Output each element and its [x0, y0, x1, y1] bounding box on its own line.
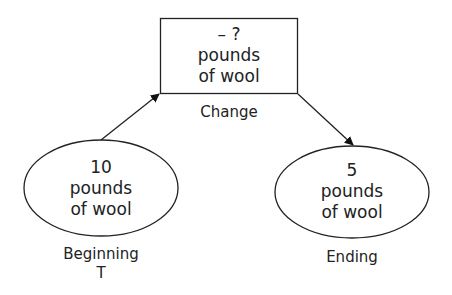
- beginning-unit-line2: of wool: [24, 199, 178, 220]
- change-text: – ? pounds of wool: [160, 24, 298, 87]
- beginning-sublabel: T: [24, 264, 178, 283]
- ending-label: Ending: [275, 248, 429, 267]
- ending-unit-line1: pounds: [275, 181, 429, 202]
- beginning-value: 10: [24, 157, 178, 178]
- ending-text: 5 pounds of wool: [275, 160, 429, 223]
- arrow-change-to-ending: [298, 94, 353, 145]
- beginning-label-text: Beginning: [24, 245, 178, 264]
- change-unit-line1: pounds: [160, 45, 298, 66]
- change-label: Change: [160, 103, 298, 122]
- change-value: – ?: [160, 24, 298, 45]
- beginning-label: Beginning T: [24, 245, 178, 283]
- ending-value: 5: [275, 160, 429, 181]
- ending-unit-line2: of wool: [275, 202, 429, 223]
- beginning-text: 10 pounds of wool: [24, 157, 178, 220]
- arrow-beginning-to-change: [101, 94, 159, 140]
- change-unit-line2: of wool: [160, 66, 298, 87]
- beginning-unit-line1: pounds: [24, 178, 178, 199]
